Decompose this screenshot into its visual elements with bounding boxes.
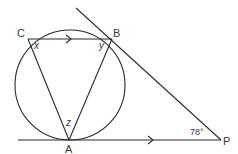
label-point-p: P: [223, 135, 230, 147]
label-point-b: B: [113, 27, 120, 39]
chord-ba: [69, 39, 112, 140]
angle-label-p: 78°: [190, 127, 204, 137]
circle-geometry-diagram: C B A P x y z 78°: [0, 0, 238, 154]
chord-ca: [28, 39, 69, 140]
angle-label-y: y: [98, 40, 105, 51]
label-point-a: A: [65, 143, 73, 154]
tangent-line-bp: [76, 8, 221, 140]
angle-label-x: x: [33, 40, 40, 51]
angle-label-z: z: [65, 117, 71, 128]
label-point-c: C: [17, 27, 25, 39]
